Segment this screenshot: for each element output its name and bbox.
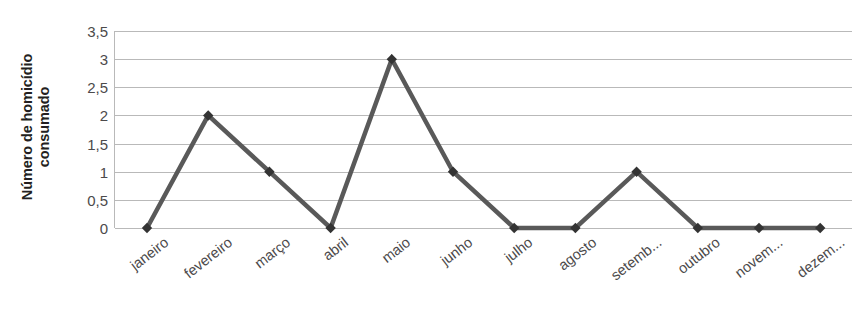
- y-axis-title-line-2: consumado: [36, 87, 53, 167]
- x-axis-tick-labels: janeirofevereiromarçoabrilmaiojunhojulho…: [114, 228, 851, 322]
- y-axis-tick-label: 3: [56, 52, 108, 67]
- x-axis-tick-label: maio: [379, 234, 414, 266]
- x-axis-tick-label: fevereiro: [181, 234, 235, 281]
- x-axis-tick-label: setemb...: [607, 234, 664, 283]
- x-axis-tick-label: julho: [502, 234, 536, 265]
- x-axis-tick-label: novem...: [732, 234, 786, 281]
- y-axis-tick-label: 2: [56, 108, 108, 123]
- x-axis-tick-label: junho: [438, 234, 476, 268]
- y-axis-title: Número de homicídio consumado: [13, 17, 59, 237]
- y-axis-tick-label: 2,5: [56, 80, 108, 95]
- x-axis-tick-label: agosto: [555, 234, 599, 273]
- x-axis-tick-label: outubro: [675, 234, 724, 277]
- x-axis-tick-label: janeiro: [127, 234, 171, 273]
- series-line: [147, 59, 820, 228]
- y-axis-title-line-1: Número de homicídio: [19, 54, 36, 200]
- data-series-homicidios: [115, 31, 852, 228]
- plot-area: [114, 31, 851, 228]
- y-axis-tick-label: 0: [56, 221, 108, 236]
- x-axis-tick-label: dezem...: [793, 234, 847, 281]
- y-axis-tick-labels: 3,532,521,510,50: [56, 0, 108, 322]
- y-axis-tick-label: 3,5: [56, 24, 108, 39]
- y-axis-tick-label: 1,5: [56, 136, 108, 151]
- y-axis-tick-label: 0,5: [56, 192, 108, 207]
- y-axis-tick-label: 1: [56, 164, 108, 179]
- x-axis-tick-label: abril: [320, 234, 351, 263]
- x-axis-tick-label: março: [251, 234, 293, 271]
- line-chart: Número de homicídio consumado 3,532,521,…: [0, 0, 867, 322]
